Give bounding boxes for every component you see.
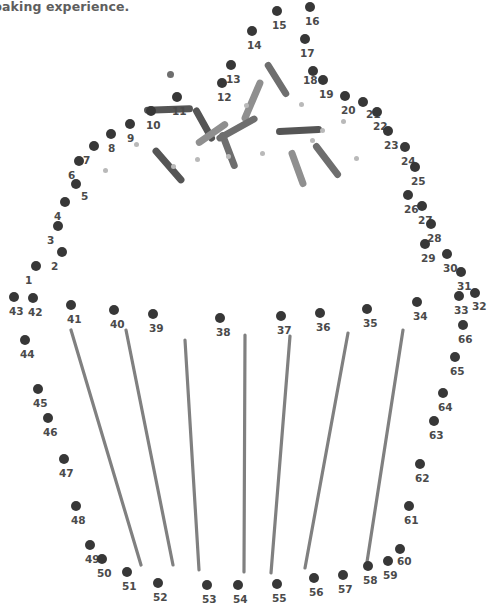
puzzle-dot-label-15: 15 [272,20,287,31]
puzzle-dot-label-62: 62 [415,473,430,484]
wrapper-line [126,330,173,565]
puzzle-dot-label-45: 45 [33,398,48,409]
puzzle-dot-59[interactable] [383,556,393,566]
puzzle-dot-55[interactable] [272,579,282,589]
puzzle-dot-10[interactable] [146,106,156,116]
puzzle-dot-11[interactable] [172,92,182,102]
puzzle-dot-57[interactable] [338,570,348,580]
puzzle-dot-label-12: 12 [217,92,232,103]
puzzle-dot-53[interactable] [202,580,212,590]
puzzle-dot-42[interactable] [28,293,38,303]
sprinkle [276,125,322,134]
puzzle-dot-28[interactable] [426,219,436,229]
puzzle-dot-20[interactable] [340,91,350,101]
puzzle-dot-64[interactable] [438,388,448,398]
sprinkle [312,141,343,179]
puzzle-dot-29[interactable] [420,239,430,249]
puzzle-dot-1[interactable] [31,261,41,271]
puzzle-dot-19[interactable] [318,75,328,85]
puzzle-dot-label-61: 61 [404,515,419,526]
puzzle-dot-23[interactable] [383,126,393,136]
puzzle-dot-33[interactable] [454,291,464,301]
puzzle-dot-label-6: 6 [68,170,75,181]
puzzle-dot-label-14: 14 [247,40,262,51]
sprinkle [287,148,307,187]
puzzle-dot-label-43: 43 [9,306,24,317]
puzzle-dot-36[interactable] [315,308,325,318]
puzzle-dot-label-32: 32 [472,301,487,312]
puzzle-dot-30[interactable] [442,249,452,259]
wrapper-line [305,333,348,568]
puzzle-dot-56[interactable] [309,573,319,583]
puzzle-dot-label-2: 2 [51,261,58,272]
puzzle-dot-52[interactable] [153,578,163,588]
puzzle-dot-16[interactable] [305,2,315,12]
puzzle-dot-label-42: 42 [28,307,43,318]
puzzle-dot-46[interactable] [43,413,53,423]
puzzle-dot-2[interactable] [57,247,67,257]
puzzle-dot-31[interactable] [456,267,466,277]
puzzle-dot-8[interactable] [106,129,116,139]
puzzle-dot-label-18: 18 [303,75,318,86]
puzzle-dot-14[interactable] [247,26,257,36]
puzzle-dot-43[interactable] [9,292,19,302]
puzzle-dot-label-10: 10 [146,120,161,131]
puzzle-dot-38[interactable] [215,313,225,323]
wrapper-line [71,330,141,565]
puzzle-dot-label-63: 63 [429,430,444,441]
puzzle-dot-34[interactable] [412,297,422,307]
puzzle-dot-label-48: 48 [71,515,86,526]
puzzle-dot-41[interactable] [66,300,76,310]
puzzle-dot-45[interactable] [33,384,43,394]
puzzle-dot-4[interactable] [60,197,70,207]
mini-dot [171,164,176,169]
puzzle-dot-58[interactable] [363,561,373,571]
puzzle-dot-49[interactable] [85,540,95,550]
puzzle-dot-label-33: 33 [454,305,469,316]
puzzle-dot-label-64: 64 [438,402,453,413]
mini-dot [320,128,325,133]
puzzle-dot-32[interactable] [470,288,480,298]
puzzle-dot-label-41: 41 [67,314,82,325]
puzzle-dot-25[interactable] [410,162,420,172]
puzzle-dot-label-20: 20 [341,105,356,116]
puzzle-dot-3[interactable] [53,221,63,231]
puzzle-dot-27[interactable] [417,201,427,211]
puzzle-dot-label-29: 29 [421,253,436,264]
puzzle-dot-22[interactable] [372,107,382,117]
puzzle-dot-label-37: 37 [277,325,292,336]
puzzle-dot-26[interactable] [403,190,413,200]
puzzle-dot-label-52: 52 [153,592,168,603]
puzzle-dot-24[interactable] [400,142,410,152]
puzzle-dot-47[interactable] [59,454,69,464]
puzzle-dot-label-39: 39 [149,323,164,334]
puzzle-dot-65[interactable] [450,352,460,362]
puzzle-dot-label-40: 40 [110,319,125,330]
puzzle-dot-54[interactable] [233,580,243,590]
puzzle-dot-50[interactable] [97,554,107,564]
puzzle-dot-66[interactable] [458,320,468,330]
puzzle-dot-21[interactable] [358,97,368,107]
puzzle-dot-7[interactable] [89,141,99,151]
puzzle-dot-63[interactable] [429,416,439,426]
puzzle-dot-61[interactable] [404,501,414,511]
mini-dot [244,103,249,108]
puzzle-dot-35[interactable] [362,304,372,314]
puzzle-dot-51[interactable] [122,567,132,577]
puzzle-dot-9[interactable] [125,119,135,129]
puzzle-dot-13[interactable] [226,60,236,70]
puzzle-dot-62[interactable] [415,459,425,469]
puzzle-dot-37[interactable] [276,311,286,321]
puzzle-dot-39[interactable] [148,309,158,319]
puzzle-dot-48[interactable] [71,501,81,511]
puzzle-dot-60[interactable] [395,544,405,554]
wrapper-line [367,330,403,562]
puzzle-dot-label-16: 16 [305,16,320,27]
sprinkle [167,71,174,78]
puzzle-dot-44[interactable] [20,335,30,345]
puzzle-dot-17[interactable] [300,34,310,44]
puzzle-dot-40[interactable] [109,305,119,315]
sprinkle [151,146,186,185]
puzzle-dot-15[interactable] [272,6,282,16]
sprinkle [263,60,290,98]
